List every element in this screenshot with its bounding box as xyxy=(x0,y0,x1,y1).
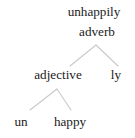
tree-node-ly: ly xyxy=(111,68,121,81)
branch-adjective-split xyxy=(30,89,71,110)
branch-adverb-to-ly xyxy=(96,45,118,66)
branch-adverb-to-adjective xyxy=(70,45,96,66)
tree-node-root-word: unhappily xyxy=(68,5,121,18)
tree-node-happy: happy xyxy=(54,115,86,128)
branch-adverb-split xyxy=(70,45,118,66)
branch-adjective-to-happy xyxy=(57,89,71,110)
branch-adjective-to-un xyxy=(30,89,57,110)
morphology-tree-figure: unhappily adverb adjective ly un happy xyxy=(0,0,135,138)
tree-node-adverb: adverb xyxy=(79,25,115,38)
tree-node-adjective: adjective xyxy=(34,68,82,81)
tree-node-un: un xyxy=(14,115,27,128)
